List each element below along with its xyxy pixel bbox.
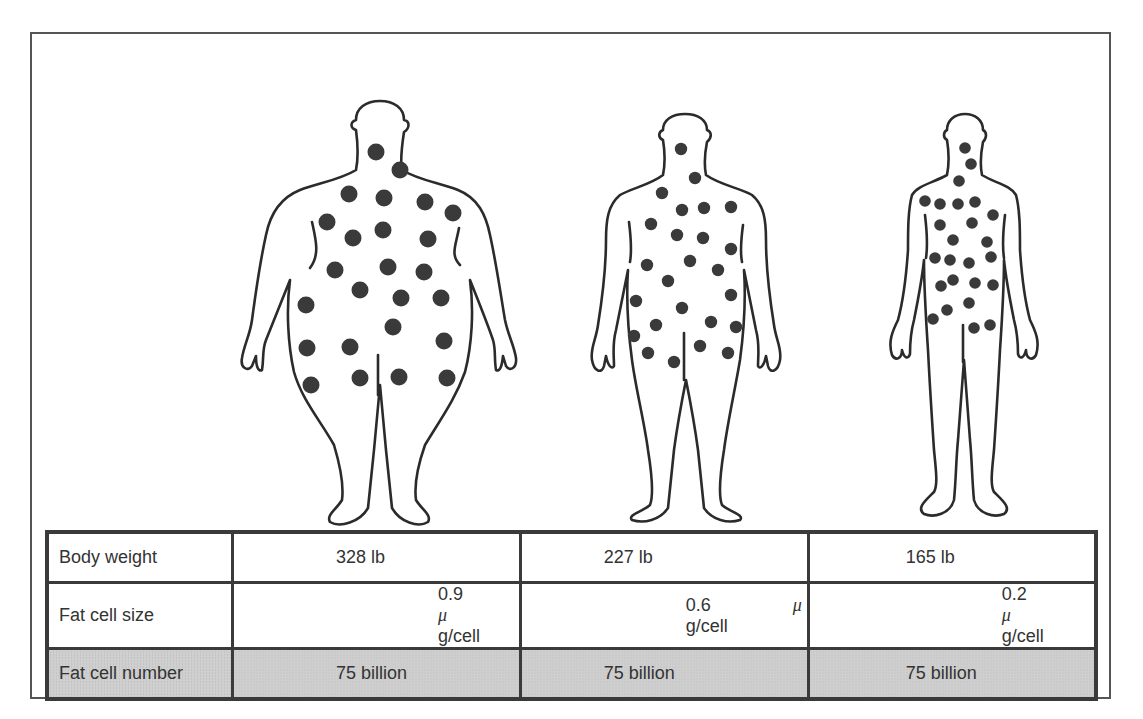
- armpit-left-lean: [925, 215, 927, 258]
- fat-cell-dot: [705, 316, 717, 328]
- fat-cell-dot: [712, 264, 724, 276]
- armpit-left-obese: [310, 222, 316, 268]
- fat-cell-dot: [689, 172, 701, 184]
- fat-cell-dot: [968, 322, 980, 334]
- fat-cell-dot: [645, 218, 657, 230]
- fat-cell-dot: [303, 377, 320, 394]
- fat-cell-dot: [391, 369, 408, 386]
- armpit-right-overweight: [741, 225, 743, 262]
- fat-cell-dot: [944, 254, 956, 266]
- fat-cell-dot: [416, 264, 433, 281]
- fat-cell-dot: [947, 274, 959, 286]
- armpit-right-obese: [454, 228, 460, 265]
- fat-cell-dot: [725, 243, 737, 255]
- fat-cell-dot: [676, 302, 688, 314]
- fat-cell-dot: [420, 231, 437, 248]
- fat-cell-dot: [327, 262, 344, 279]
- fat-cell-dot: [684, 255, 696, 267]
- fat-cell-dot: [352, 282, 369, 299]
- fat-cell-dot: [417, 194, 434, 211]
- body-outline-obese: [242, 101, 516, 524]
- fat-cell-comparison-table: Body weight 328 lb 227 lb 165 lb Fat cel…: [45, 530, 1098, 701]
- fat-cell-dot: [436, 333, 453, 350]
- fat-cell-dots-obese: [298, 144, 462, 394]
- fat-cell-dot: [697, 232, 709, 244]
- figure-obese-328: [242, 101, 516, 524]
- fat-cell-dot: [725, 289, 737, 301]
- fat-cell-dot: [929, 252, 941, 264]
- fat-cell-dot: [934, 198, 946, 210]
- armpit-left-overweight: [629, 222, 631, 262]
- fat-cell-dot: [299, 340, 316, 357]
- fat-cell-dot: [675, 143, 687, 155]
- body-weight-cell: 227 lb: [520, 532, 808, 583]
- body-outline-overweight: [592, 114, 781, 522]
- body-weight-cell: 328 lb: [233, 532, 521, 583]
- fat-cell-dot: [953, 175, 965, 187]
- row-label: Fat cell number: [47, 649, 233, 700]
- fat-cell-dot: [987, 279, 999, 291]
- table-row-fat-cell-number: Fat cell number 75 billion 75 billion 75…: [47, 649, 1096, 700]
- fat-cell-dot: [341, 186, 358, 203]
- table-row-fat-cell-size: Fat cell size 0.9 μg/cell 0.6 μg/cell 0.…: [47, 583, 1096, 649]
- fat-cell-dot: [375, 222, 392, 239]
- fat-cell-dot: [439, 370, 456, 387]
- fat-cell-dot: [965, 158, 977, 170]
- fat-cell-dot: [676, 204, 688, 216]
- fat-cell-number-cell: 75 billion: [520, 649, 808, 700]
- fat-cell-size-cell: 0.9 μg/cell: [233, 583, 521, 649]
- fat-cell-size-cell: 0.2 μg/cell: [808, 583, 1096, 649]
- fat-cell-dot: [650, 319, 662, 331]
- fat-cell-dot: [941, 304, 953, 316]
- fat-cell-dot: [966, 217, 978, 229]
- fat-cell-dot: [656, 187, 668, 199]
- fat-cell-dot: [385, 319, 402, 336]
- fat-cell-dot: [952, 198, 964, 210]
- fat-cell-dot: [987, 209, 999, 221]
- fat-cell-dot: [947, 234, 959, 246]
- fat-cell-dot: [927, 313, 939, 325]
- fat-cell-dot: [641, 259, 653, 271]
- row-label: Body weight: [47, 532, 233, 583]
- fat-cell-dot: [319, 214, 336, 231]
- fat-cell-dot: [722, 347, 734, 359]
- armpit-right-lean: [1003, 215, 1005, 258]
- fat-cell-dot: [630, 295, 642, 307]
- fat-cell-dot: [963, 257, 975, 269]
- body-outline-lean: [890, 114, 1037, 515]
- fat-cell-dot: [959, 142, 971, 154]
- figure-lean-165: [890, 114, 1037, 515]
- fat-cell-dot: [433, 290, 450, 307]
- fat-cell-dot: [969, 196, 981, 208]
- fat-cell-dot: [981, 236, 993, 248]
- row-label: Fat cell size: [47, 583, 233, 649]
- fat-cell-dot: [352, 370, 369, 387]
- fat-cell-dot: [934, 219, 946, 231]
- fat-cell-dot: [668, 356, 680, 368]
- fat-cell-dot: [935, 280, 947, 292]
- figure-overweight-227: [592, 114, 781, 522]
- fat-cell-dot: [730, 321, 742, 333]
- fat-cell-dot: [642, 347, 654, 359]
- fat-cell-dot: [919, 195, 931, 207]
- fat-cell-dot: [392, 162, 409, 179]
- fat-cell-dot: [342, 339, 359, 356]
- fat-cell-dot: [380, 259, 397, 276]
- table-row-body-weight: Body weight 328 lb 227 lb 165 lb: [47, 532, 1096, 583]
- fat-cell-dots-lean: [919, 142, 999, 334]
- fat-cell-dot: [985, 251, 997, 263]
- fat-cell-number-cell: 75 billion: [233, 649, 521, 700]
- fat-cell-dot: [963, 297, 975, 309]
- fat-cell-dot: [698, 202, 710, 214]
- fat-cell-dot: [445, 205, 462, 222]
- fat-cell-dot: [393, 290, 410, 307]
- body-weight-cell: 165 lb: [808, 532, 1096, 583]
- fat-cell-dot: [345, 230, 362, 247]
- fat-cell-dot: [368, 144, 385, 161]
- fat-cell-dot: [984, 319, 996, 331]
- fat-cell-dot: [628, 330, 640, 342]
- fat-cell-dot: [725, 201, 737, 213]
- fat-cell-dot: [969, 277, 981, 289]
- fat-cell-dot: [298, 297, 315, 314]
- fat-cell-number-cell: 75 billion: [808, 649, 1096, 700]
